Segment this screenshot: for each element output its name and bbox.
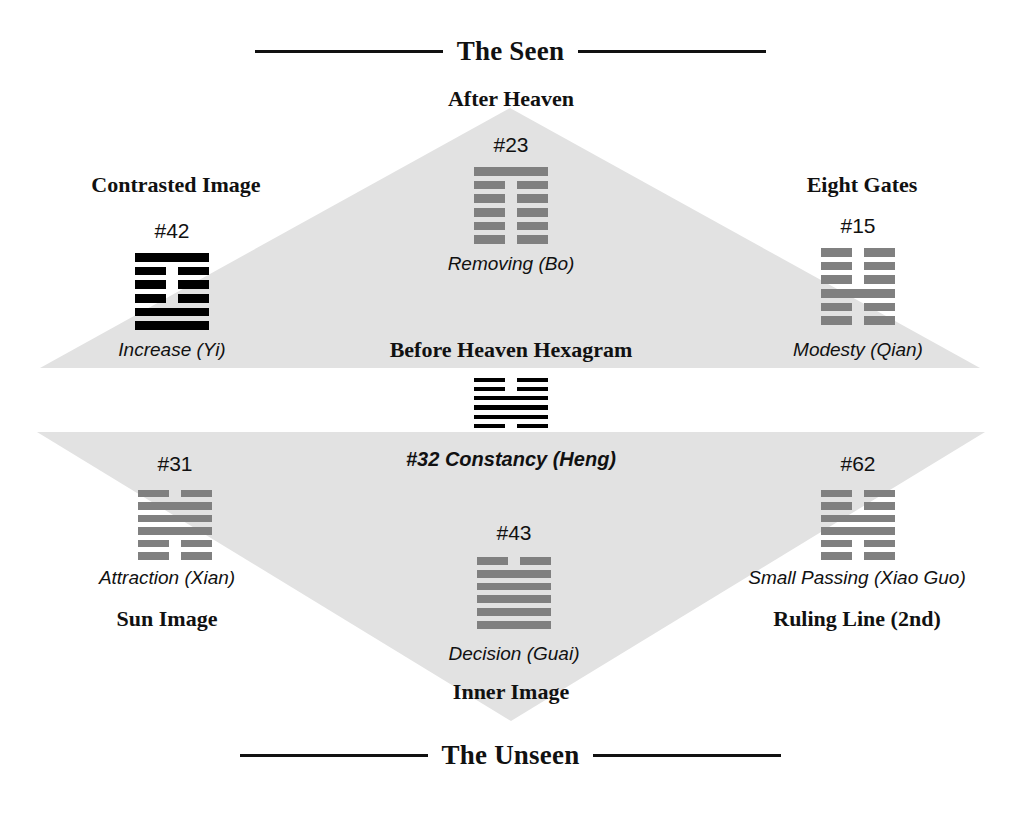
banner-the-seen-label: The Seen <box>443 36 578 67</box>
heading-before-heaven-hexagram: Before Heaven Hexagram <box>390 337 633 363</box>
hexagram-line-broken <box>474 424 548 428</box>
banner-rule-left <box>255 50 443 53</box>
hexagram-line-broken <box>474 378 548 382</box>
heading-contrasted-image: Contrasted Image <box>91 172 260 198</box>
heading-sun-image: Sun Image <box>117 606 218 632</box>
hexagram-line-solid <box>474 415 548 419</box>
hexagram-line-broken <box>821 540 895 547</box>
hexagram-glyph-before-heaven-center <box>474 378 548 428</box>
hexagram-line-solid <box>821 289 895 298</box>
banner-rule-right <box>593 754 781 757</box>
hexagram-number-inner-image: #43 <box>496 521 531 545</box>
hexagram-line-broken <box>474 387 548 391</box>
diagram-canvas: The Seen The Unseen After Heaven Before … <box>0 0 1021 815</box>
hexagram-line-solid <box>138 502 212 509</box>
hexagram-line-broken <box>474 181 548 190</box>
hexagram-glyph-eight-gates <box>821 248 895 325</box>
hexagram-line-solid <box>135 321 209 330</box>
banner-the-seen: The Seen <box>0 36 1021 67</box>
hexagram-line-broken <box>138 540 212 547</box>
banner-rule-right <box>578 50 766 53</box>
hexagram-glyph-contrasted-image <box>135 253 209 330</box>
hexagram-number-sun-image: #31 <box>157 452 192 476</box>
hexagram-line-solid <box>138 527 212 534</box>
hexagram-name-ruling-line: Small Passing (Xiao Guo) <box>748 567 966 589</box>
hexagram-line-broken <box>821 248 895 257</box>
hexagram-line-broken <box>135 294 209 303</box>
hexagram-line-solid <box>474 396 548 400</box>
hexagram-name-after-heaven: Removing (Bo) <box>448 253 575 275</box>
hexagram-glyph-after-heaven <box>474 167 548 244</box>
hexagram-line-solid <box>135 308 209 317</box>
hexagram-glyph-inner-image <box>477 557 551 629</box>
hexagram-line-broken <box>135 280 209 289</box>
hexagram-line-broken <box>821 262 895 271</box>
hexagram-glyph-sun-image <box>138 490 212 560</box>
hexagram-line-broken <box>474 222 548 231</box>
hexagram-name-contrasted-image: Increase (Yi) <box>118 339 225 361</box>
hexagram-line-broken <box>474 194 548 203</box>
hexagram-number-contrasted-image: #42 <box>154 219 189 243</box>
hexagram-number-eight-gates: #15 <box>840 214 875 238</box>
banner-rule-left <box>240 754 428 757</box>
hexagram-line-solid <box>135 253 209 262</box>
heading-inner-image: Inner Image <box>453 679 569 705</box>
hexagram-name-inner-image: Decision (Guai) <box>449 643 580 665</box>
hexagram-line-broken <box>474 208 548 217</box>
hexagram-number-after-heaven: #23 <box>493 133 528 157</box>
heading-eight-gates: Eight Gates <box>807 172 918 198</box>
hexagram-line-broken <box>821 490 895 497</box>
hexagram-line-broken <box>138 490 212 497</box>
hexagram-line-broken <box>477 557 551 565</box>
hexagram-line-solid <box>138 515 212 522</box>
hexagram-line-solid <box>477 608 551 616</box>
heading-after-heaven: After Heaven <box>448 86 574 112</box>
hexagram-number-ruling-line: #62 <box>840 452 875 476</box>
hexagram-line-broken <box>821 552 895 559</box>
hexagram-line-solid <box>477 621 551 629</box>
hexagram-line-broken <box>821 275 895 284</box>
banner-the-unseen-label: The Unseen <box>428 740 594 771</box>
hexagram-line-solid <box>477 583 551 591</box>
hexagram-line-solid <box>474 405 548 409</box>
hexagram-line-broken <box>821 502 895 509</box>
hexagram-line-broken <box>138 552 212 559</box>
heading-ruling-line: Ruling Line (2nd) <box>773 606 941 632</box>
hexagram-line-broken <box>821 316 895 325</box>
banner-the-unseen: The Unseen <box>0 740 1021 771</box>
hexagram-line-solid <box>477 570 551 578</box>
hexagram-line-broken <box>821 303 895 312</box>
hexagram-label-constancy-heng: #32 Constancy (Heng) <box>406 448 616 471</box>
hexagram-line-solid <box>821 515 895 522</box>
hexagram-line-solid <box>477 595 551 603</box>
hexagram-line-broken <box>474 235 548 244</box>
hexagram-line-solid <box>474 167 548 176</box>
hexagram-glyph-ruling-line <box>821 490 895 560</box>
hexagram-name-sun-image: Attraction (Xian) <box>99 567 235 589</box>
hexagram-line-broken <box>135 267 209 276</box>
hexagram-line-solid <box>821 527 895 534</box>
hexagram-name-eight-gates: Modesty (Qian) <box>793 339 923 361</box>
